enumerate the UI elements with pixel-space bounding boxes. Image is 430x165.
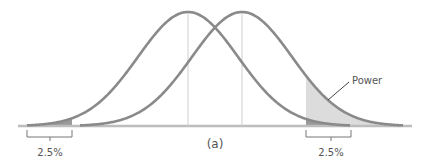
left-tail-bracket [27,130,72,141]
panel-label: (a) [207,137,224,151]
right-tail-label: 2.5% [318,147,343,158]
left-tail-label: 2.5% [37,147,62,158]
power-label: Power [352,75,383,86]
right-tail-bracket [306,130,351,141]
power-leader-line [328,82,349,100]
power-diagram: 2.5% 2.5% (a) Power [0,0,430,165]
